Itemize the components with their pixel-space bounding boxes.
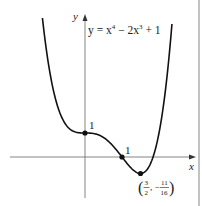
y-axis-label: y xyxy=(72,10,78,22)
svg-text:16: 16 xyxy=(161,189,169,197)
svg-text:(: ( xyxy=(138,179,143,197)
equation-label: y = x4 − 2x3 + 1 xyxy=(88,23,161,37)
point-label-minimum: ( 3 2 , − 11 16 ) xyxy=(138,179,174,197)
x-axis-arrow-icon xyxy=(189,155,196,160)
point-x-intercept xyxy=(119,154,124,159)
svg-text:2: 2 xyxy=(145,189,149,197)
graph: x y y = x4 − 2x3 + 1 1 1 ( 3 2 , − 11 16… xyxy=(0,0,202,206)
y-axis xyxy=(83,14,88,198)
function-curve xyxy=(42,18,172,173)
x-axis xyxy=(10,155,196,160)
point-local-minimum xyxy=(138,171,143,176)
y-axis-arrow-icon xyxy=(83,14,88,21)
svg-text:11: 11 xyxy=(161,179,168,187)
svg-text:3: 3 xyxy=(145,179,149,187)
svg-text:): ) xyxy=(169,179,174,197)
point-label-y-intercept: 1 xyxy=(89,119,95,131)
svg-text:, −: , − xyxy=(150,182,160,192)
x-axis-label: x xyxy=(188,160,194,172)
point-y-intercept xyxy=(82,130,87,135)
point-label-x-intercept: 1 xyxy=(125,144,131,156)
